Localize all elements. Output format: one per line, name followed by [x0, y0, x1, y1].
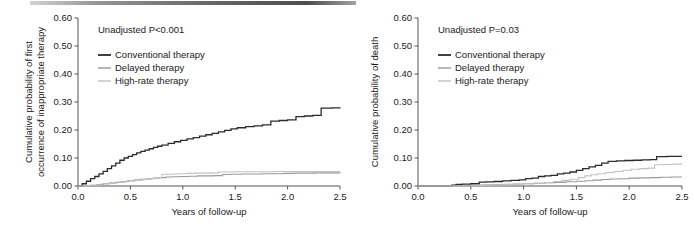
plot-right: 0.000.100.200.300.400.500.600.00.51.01.5… — [369, 12, 689, 217]
y-axis-title: Cumulative probability of death — [369, 37, 380, 167]
y-axis-tick-label: 0.30 — [54, 96, 73, 107]
legend-label: Conventional therapy — [455, 49, 545, 60]
axis-spines — [78, 18, 340, 186]
kaplan-meier-figure: 0.000.100.200.300.400.500.600.00.51.01.5… — [0, 0, 694, 231]
y-axis-tick-label: 0.40 — [54, 68, 73, 79]
x-axis-tick-label: 0.0 — [411, 191, 424, 202]
x-axis-title: Years of follow-up — [171, 206, 246, 217]
curve-conventional-therapy — [418, 156, 682, 186]
x-axis-tick-label: 2.0 — [623, 191, 636, 202]
y-axis-tick-label: 0.10 — [394, 152, 413, 163]
x-axis-tick-label: 1.5 — [229, 191, 242, 202]
curve-high-rate-therapy — [418, 164, 682, 186]
x-axis-tick-label: 2.5 — [333, 191, 346, 202]
y-axis-tick-label: 0.10 — [54, 152, 73, 163]
x-axis-tick-label: 1.5 — [570, 191, 583, 202]
x-axis-tick-label: 2.5 — [675, 191, 688, 202]
x-axis-tick-label: 1.0 — [517, 191, 530, 202]
x-axis-title: Years of follow-up — [512, 206, 587, 217]
curve-conventional-therapy — [78, 108, 340, 186]
chart-panel-right: 0.000.100.200.300.400.500.600.00.51.01.5… — [347, 0, 694, 231]
x-axis-tick-label: 0.5 — [124, 191, 137, 202]
legend-label: High-rate therapy — [115, 75, 189, 86]
p-value-annotation: Unadjusted P<0.001 — [98, 24, 184, 35]
y-axis-title: occurrence of inappropriate therapy — [35, 27, 46, 177]
legend-label: Delayed therapy — [455, 62, 524, 73]
y-axis-tick-label: 0.60 — [394, 12, 413, 23]
legend-label: Delayed therapy — [115, 62, 184, 73]
y-axis-tick-label: 0.40 — [394, 68, 413, 79]
legend-label: Conventional therapy — [115, 49, 205, 60]
plot-left: 0.000.100.200.300.400.500.600.00.51.01.5… — [23, 12, 347, 217]
chart-svg-right: 0.000.100.200.300.400.500.600.00.51.01.5… — [347, 0, 694, 231]
p-value-annotation: Unadjusted P=0.03 — [438, 24, 519, 35]
y-axis-tick-label: 0.20 — [394, 124, 413, 135]
y-axis-tick-label: 0.60 — [54, 12, 73, 23]
x-axis-tick-label: 0.0 — [71, 191, 84, 202]
legend-label: High-rate therapy — [455, 75, 529, 86]
x-axis-tick-label: 2.0 — [281, 191, 294, 202]
y-axis-tick-label: 0.00 — [54, 180, 73, 191]
y-axis-tick-label: 0.30 — [394, 96, 413, 107]
x-axis-tick-label: 1.0 — [176, 191, 189, 202]
y-axis-title: Cumulative probability of first — [23, 41, 34, 163]
y-axis-tick-label: 0.50 — [394, 40, 413, 51]
chart-panel-left: 0.000.100.200.300.400.500.600.00.51.01.5… — [0, 0, 347, 231]
chart-svg-left: 0.000.100.200.300.400.500.600.00.51.01.5… — [0, 0, 347, 231]
y-axis-tick-label: 0.00 — [394, 180, 413, 191]
curve-delayed-therapy — [78, 173, 340, 186]
y-axis-tick-label: 0.20 — [54, 124, 73, 135]
x-axis-tick-label: 0.5 — [464, 191, 477, 202]
y-axis-tick-label: 0.50 — [54, 40, 73, 51]
